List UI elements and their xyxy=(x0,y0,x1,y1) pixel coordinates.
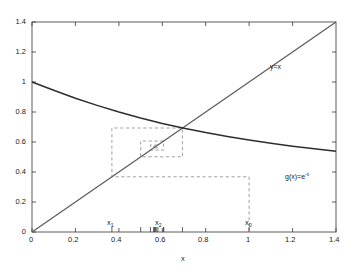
annotation-x1: x1 xyxy=(107,218,114,227)
series-y-equals-x xyxy=(32,22,336,232)
x-tick-label-1-2: 1.2 xyxy=(285,236,295,244)
y-tick-label-0-6: 0.6 xyxy=(2,138,26,146)
series-g-of-x xyxy=(32,82,336,151)
x-tick-label-0-8: 0.8 xyxy=(198,236,208,244)
y-tick-label-1-2: 1.2 xyxy=(2,48,26,56)
x-axis-title: x xyxy=(181,254,185,263)
g-label-base: g(x)=e xyxy=(285,173,305,180)
y-tick-label-0-2: 0.2 xyxy=(2,198,26,206)
y-tick-label-0: 0 xyxy=(2,228,26,236)
x-tick-label-0: 0 xyxy=(29,236,33,244)
curve-label-y-equals-x: y=x xyxy=(270,63,281,70)
iterate-axis-markers xyxy=(112,227,249,232)
annotation-x0: x0 xyxy=(245,218,252,227)
curve-label-g-of-x: g(x)=e-x xyxy=(285,173,309,180)
x2-sub: 2 xyxy=(159,222,162,228)
y-tick-label-0-8: 0.8 xyxy=(2,108,26,116)
x-tick-label-0-2: 0.2 xyxy=(68,236,78,244)
annotation-x2: x2 xyxy=(155,218,162,227)
y-tick-label-1-4: 1.4 xyxy=(2,18,26,26)
y-tick-label-0-4: 0.4 xyxy=(2,168,26,176)
cobweb-iteration-path xyxy=(112,128,249,232)
x-tick-label-1-4: 1.4 xyxy=(329,236,339,244)
y-tick-label-1: 1 xyxy=(2,78,26,86)
chart-plot-area xyxy=(0,0,354,273)
figure-canvas: 1.4 1.2 1 0.8 0.6 0.4 0.2 0 0 0.2 0.4 0.… xyxy=(0,0,354,273)
x0-sub: 0 xyxy=(249,222,252,228)
x-tick-label-0-4: 0.4 xyxy=(111,236,121,244)
g-label-exponent: -x xyxy=(305,172,309,177)
x-tick-label-1: 1 xyxy=(246,236,250,244)
x-tick-label-0-6: 0.6 xyxy=(155,236,165,244)
x1-sub: 1 xyxy=(111,222,114,228)
